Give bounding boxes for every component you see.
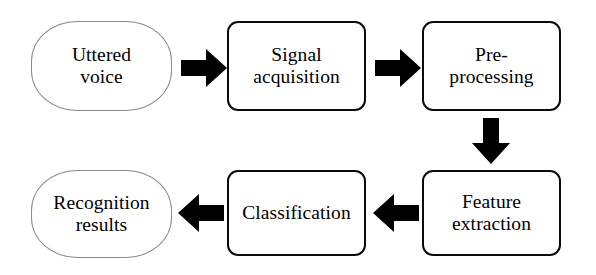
node-classification[interactable]: Classification <box>227 170 366 256</box>
arrow-left-icon-5 <box>178 193 224 233</box>
arrow-left-icon-4 <box>373 193 419 233</box>
node-uttered-voice[interactable]: Uttered voice <box>31 21 172 111</box>
arrow-right-icon-1 <box>181 48 227 88</box>
node-recognition-results[interactable]: Recognition results <box>31 170 172 258</box>
arrow-right-icon-2 <box>375 48 421 88</box>
node-pre-processing[interactable]: Pre- processing <box>422 21 561 111</box>
node-feature-extraction[interactable]: Feature extraction <box>422 170 561 256</box>
arrow-down-icon-3 <box>471 118 511 164</box>
flowchart-canvas: Speech recognition pipeline flowchart Ut… <box>0 0 596 275</box>
node-signal-acquisition[interactable]: Signal acquisition <box>227 21 366 111</box>
